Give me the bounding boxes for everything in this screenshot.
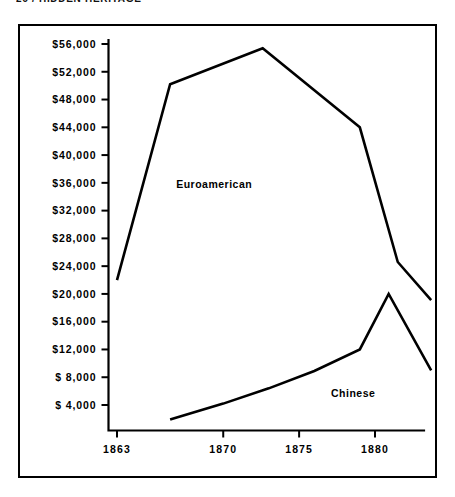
- page-running-head: 26 / HIDDEN HERITAGE: [16, 0, 142, 5]
- figure-border: [18, 24, 437, 478]
- running-head-text: 26 / HIDDEN HERITAGE: [16, 0, 142, 5]
